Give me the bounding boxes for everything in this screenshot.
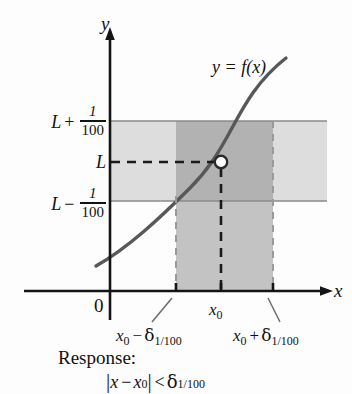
y-tick-label-middle: L	[8, 152, 106, 172]
y-tick-middle-base: L	[96, 152, 106, 173]
x-tick-center-subscript: 0	[217, 308, 223, 322]
limit-epsilon-delta-figure: y x 0 y = f(x) L + 1 100 L L − 1 100 x0 …	[0, 0, 352, 394]
y-tick-upper-fraction: 1 100	[80, 104, 107, 138]
caption-heading: Response:	[58, 348, 136, 367]
x-tick-right-delta-symbol: δ	[261, 325, 271, 345]
x-axis-arrowhead	[320, 286, 333, 296]
y-tick-lower-fraction: 1 100	[80, 186, 107, 220]
abs-close-bar: |	[147, 371, 151, 392]
x-tick-right-base: x	[233, 326, 241, 345]
caption-formula: |x−x0|<δ1/100	[106, 371, 205, 392]
y-tick-upper-numerator: 1	[87, 104, 99, 120]
y-axis-label: y	[101, 14, 109, 33]
x-axis-label: x	[334, 281, 342, 300]
caption-delta-subscript: 1/100	[178, 378, 205, 390]
delta-band-lower	[176, 201, 273, 291]
y-tick-lower-denominator: 100	[80, 204, 107, 220]
caption-relation: <	[155, 373, 165, 391]
x-tick-label-left: x0−δ1/100	[116, 325, 182, 349]
caption-delta-symbol: δ	[167, 373, 178, 391]
x-tick-left-delta-subscript: 1/100	[154, 334, 181, 348]
x-tick-left-operator: −	[133, 326, 143, 345]
open-point-marker	[215, 156, 227, 168]
leader-line-left-label	[152, 298, 172, 322]
x-tick-right-operator: +	[250, 326, 260, 345]
y-tick-upper-operator: +	[64, 112, 74, 133]
x-tick-right-delta-subscript: 1/100	[271, 334, 298, 348]
y-tick-upper-denominator: 100	[80, 122, 107, 138]
x-tick-left-base: x	[116, 326, 124, 345]
origin-label: 0	[94, 296, 104, 315]
y-tick-lower-operator: −	[64, 194, 74, 215]
y-tick-lower-numerator: 1	[87, 186, 99, 202]
x-tick-right-subscript: 0	[241, 334, 247, 348]
x-tick-left-delta-symbol: δ	[144, 325, 154, 345]
x-tick-label-center: x0	[209, 300, 223, 323]
y-tick-upper-base: L	[51, 112, 61, 133]
leader-line-right-label	[268, 298, 280, 322]
caption-x: x	[110, 373, 118, 391]
y-tick-lower-base: L	[51, 194, 61, 215]
caption-minus: −	[121, 373, 131, 391]
x-tick-center-base: x	[209, 300, 217, 319]
y-tick-label-lower: L − 1 100	[8, 190, 106, 218]
x-tick-label-right: x0+δ1/100	[233, 325, 299, 349]
curve-equation-label: y = f(x)	[212, 58, 266, 76]
caption-x0: x	[133, 373, 141, 391]
y-tick-label-upper: L + 1 100	[8, 108, 106, 136]
